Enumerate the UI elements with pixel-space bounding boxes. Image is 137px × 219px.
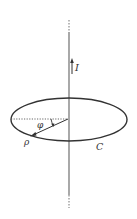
current-arrow-icon [70, 58, 74, 74]
curve-label: C [96, 141, 104, 152]
radius-label: ρ [23, 137, 30, 147]
angle-label: φ [37, 120, 44, 130]
current-label: I [74, 62, 80, 73]
radius-arrow-icon [30, 119, 68, 137]
diagram-canvas: I φ ρ C [0, 0, 137, 219]
